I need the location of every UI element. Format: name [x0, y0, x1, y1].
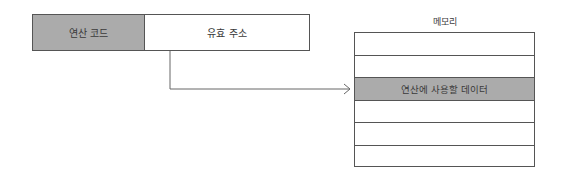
memory-row [355, 123, 534, 146]
memory-title: 메모리 [354, 15, 535, 28]
memory-row [355, 56, 534, 79]
memory-row-target: 연산에 사용할 데이터 [355, 78, 534, 101]
memory-box: 연산에 사용할 데이터 [354, 32, 535, 167]
memory-row [355, 101, 534, 124]
memory-row [355, 146, 534, 169]
memory-row-label: 연산에 사용할 데이터 [401, 82, 488, 96]
memory-row [355, 33, 534, 56]
